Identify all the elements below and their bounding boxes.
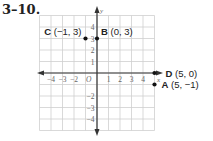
coordinate-plane: y x O −4−3−21234 4321−2−3−4 A (5, −1)B (…	[0, 0, 213, 141]
x-axis-arrow-right-icon	[156, 71, 163, 76]
x-tick-label: 1	[107, 75, 111, 84]
point-d-label: D (5, 0)	[166, 68, 198, 79]
y-axis-arrow-down-icon	[95, 129, 100, 136]
point-a-dot-icon	[152, 82, 156, 86]
point-d-dot-icon	[152, 71, 156, 75]
y-tick-label: 2	[91, 46, 95, 55]
y-axis-label: y	[99, 7, 104, 15]
y-tick-label: −2	[87, 92, 95, 101]
y-tick-label: −3	[87, 104, 95, 113]
point-c-label: C (−1, 3)	[44, 26, 81, 37]
x-tick-label: 4	[141, 75, 145, 84]
y-tick-label: −4	[87, 115, 95, 124]
x-tick-label: −2	[70, 75, 78, 84]
x-axis-label: x	[156, 76, 161, 84]
x-tick-label: −4	[47, 75, 55, 84]
x-tick-label: −3	[59, 75, 67, 84]
x-tick-label: 2	[118, 75, 122, 84]
point-a-label: A (5, −1)	[162, 79, 199, 90]
point-b-dot-icon	[95, 36, 99, 40]
y-axis-arrow-up-icon	[95, 6, 100, 13]
x-tick-label: 3	[130, 75, 134, 84]
origin-label: O	[86, 75, 92, 84]
y-tick-label: 3	[91, 35, 95, 44]
x-axis-arrow-left-icon	[37, 71, 44, 76]
x-tick-labels: −4−3−21234	[47, 75, 145, 84]
y-axis	[95, 6, 100, 136]
point-b-label: B (0, 3)	[101, 26, 133, 37]
point-c-dot-icon	[83, 36, 87, 40]
y-tick-label: 1	[91, 58, 95, 67]
y-tick-label: 4	[91, 23, 95, 32]
